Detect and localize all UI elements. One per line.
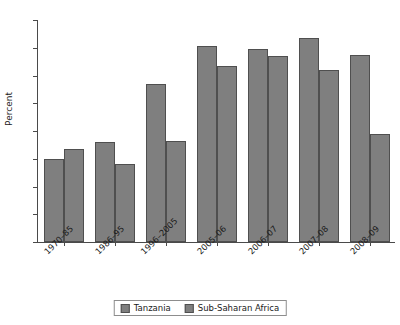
x-label-cell: 2005–06 <box>191 246 242 294</box>
y-axis-tick <box>33 214 37 215</box>
bar-group <box>293 20 344 242</box>
y-axis-label-container: Percent <box>2 0 16 243</box>
y-axis-tick <box>33 187 37 188</box>
y-axis-tick <box>33 20 37 21</box>
legend-swatch-icon <box>121 304 130 313</box>
bar-group <box>191 20 242 242</box>
bar-group <box>140 20 191 242</box>
chart-legend: Tanzania Sub-Saharan Africa <box>114 300 287 316</box>
bar <box>95 142 115 242</box>
y-axis-tick <box>33 242 37 243</box>
x-label-cell: 2007–08 <box>293 246 344 294</box>
legend-item-tanzania: Tanzania <box>121 303 171 313</box>
bar <box>197 46 217 242</box>
y-axis-tick <box>33 103 37 104</box>
y-axis-label: Percent <box>4 64 14 154</box>
bar-groups <box>38 20 395 242</box>
y-axis-tick <box>33 131 37 132</box>
bar <box>146 84 166 242</box>
bar-group <box>38 20 89 242</box>
x-axis-tick-labels: 1970–851986–951996–20052005–062006–07200… <box>38 246 395 294</box>
x-label-cell: 1996–2005 <box>140 246 191 294</box>
x-label-cell: 1986–95 <box>89 246 140 294</box>
bar-group <box>344 20 395 242</box>
legend-item-sub-saharan-africa: Sub-Saharan Africa <box>185 303 279 313</box>
y-axis-tick <box>33 48 37 49</box>
bar-group <box>89 20 140 242</box>
y-axis-tick <box>33 159 37 160</box>
legend-label: Sub-Saharan Africa <box>198 303 279 313</box>
bar <box>299 38 319 242</box>
bar-group <box>242 20 293 242</box>
y-axis-tick <box>33 76 37 77</box>
bar <box>217 66 237 242</box>
x-label-cell: 2006–07 <box>242 246 293 294</box>
x-label-cell: 1970–85 <box>38 246 89 294</box>
bar-chart: Percent 012345678 1970–851986–951996–200… <box>0 0 400 325</box>
legend-swatch-icon <box>185 304 194 313</box>
bar <box>350 55 370 242</box>
bar <box>248 49 268 242</box>
bar <box>268 56 288 242</box>
bar <box>319 70 339 242</box>
plot-area <box>37 20 395 243</box>
legend-label: Tanzania <box>134 303 171 313</box>
x-label-cell: 2008–09 <box>344 246 395 294</box>
